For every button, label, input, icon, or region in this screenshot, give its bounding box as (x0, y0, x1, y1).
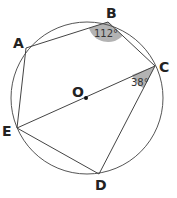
label-d: D (95, 177, 107, 193)
center-point (84, 96, 88, 100)
label-a: A (13, 35, 24, 51)
geometry-diagram: A B C O E D 112° 38° (0, 0, 177, 198)
label-e: E (2, 123, 12, 139)
segment-de (17, 128, 99, 174)
angle-c-label: 38° (131, 77, 149, 88)
label-b: B (106, 5, 117, 21)
label-c: C (159, 59, 169, 75)
label-o: O (72, 84, 84, 100)
angle-b-label: 112° (94, 28, 118, 39)
